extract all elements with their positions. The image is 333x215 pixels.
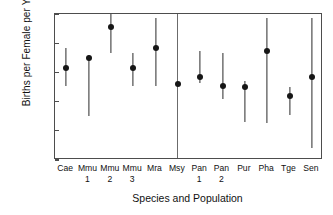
error-bar [155, 18, 156, 85]
chart-figure: Births per Female per Year 00.20.40.60.8… [0, 0, 333, 215]
y-tick-mark [55, 72, 59, 73]
x-axis-title: Species and Population [46, 192, 329, 204]
error-bar [222, 53, 223, 98]
data-point-marker [309, 74, 315, 80]
y-tick-mark [55, 43, 59, 44]
data-point-marker [63, 65, 69, 71]
data-point-marker [197, 74, 203, 80]
error-bar [311, 18, 312, 148]
x-tick-label: Sen [294, 163, 328, 184]
data-point-marker [108, 24, 114, 30]
error-bar [289, 87, 290, 115]
data-point-marker [264, 48, 270, 54]
data-point-marker [175, 81, 181, 87]
x-tick-species: Sen [303, 163, 318, 173]
data-point-marker [86, 55, 92, 61]
y-tick-mark [55, 101, 59, 102]
error-bar [88, 55, 89, 116]
plot-area [54, 13, 322, 159]
data-point-marker [130, 65, 136, 71]
y-tick-mark [55, 130, 59, 131]
error-bar [267, 18, 268, 123]
y-tick-mark [55, 159, 59, 160]
data-point-marker [220, 83, 226, 89]
data-point-marker [153, 45, 159, 51]
y-tick-mark [55, 13, 59, 14]
error-bar [110, 14, 111, 53]
x-tick-population [294, 174, 328, 185]
data-point-marker [242, 84, 248, 90]
y-axis-title: Births per Female per Year [21, 0, 32, 126]
data-point-marker [287, 93, 293, 99]
